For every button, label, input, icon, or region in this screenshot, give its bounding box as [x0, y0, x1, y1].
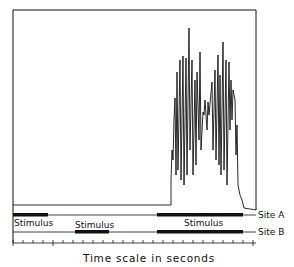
stimulus-bar-b1: [75, 230, 109, 234]
stimulus-bar-a1: [13, 213, 48, 217]
response-trace: [13, 28, 256, 210]
site-b-label: Site B: [258, 228, 284, 237]
x-axis-title: Time scale in seconds: [83, 252, 215, 264]
site-a-label: Site A: [258, 211, 284, 220]
stimulus-bar-b2: [157, 230, 243, 234]
stimulus-bar-a2: [157, 213, 243, 217]
stimulus-label-3: Stimulus: [184, 219, 223, 228]
stimulus-label-2: Stimulus: [75, 221, 114, 230]
stimulus-label-1: Stimulus: [14, 219, 53, 228]
